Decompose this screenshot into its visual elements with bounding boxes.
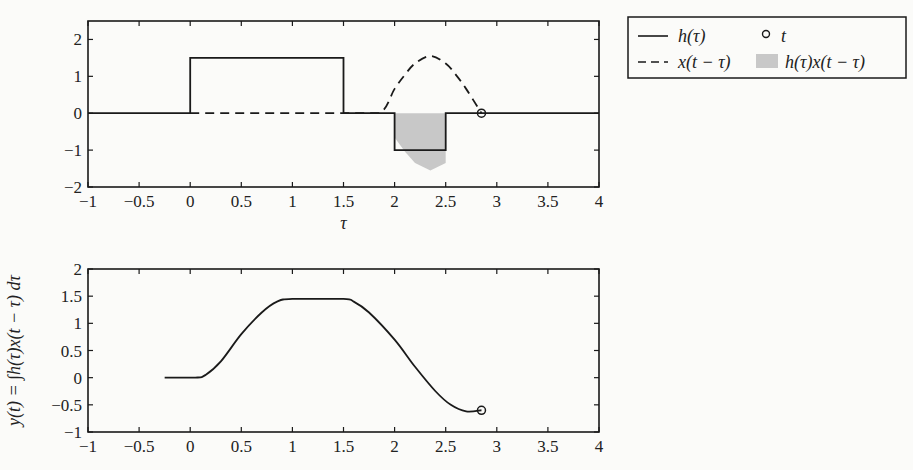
y-tick-label: 0 [74,104,83,123]
legend: h(τ)tx(t − τ)h(τ)x(t − τ) [628,17,906,78]
y-tick-label: 1 [74,67,83,86]
x-shifted-curve [190,56,481,113]
x-tick-label: 0.5 [231,437,252,456]
y-tick-label: −1 [64,141,82,160]
y-tick-label: 2 [74,30,83,49]
y-tick-label: −1 [64,423,82,442]
y-tick-label: 0.5 [61,342,82,361]
y-tick-label: 2 [74,260,83,279]
x-axis-title: τ [340,213,347,233]
figure: −1−0.500.511.522.533.54−2−1012τ−1−0.500.… [0,0,913,470]
legend-label-product: h(τ)x(t − τ) [785,52,865,73]
y-output-curve [165,299,482,412]
x-tick-label: 1.5 [333,437,354,456]
y-tick-label: 1 [74,314,83,333]
axes-frame [88,269,599,432]
convolution-plot: −1−0.500.511.522.533.54−2−1012τ [64,21,604,233]
y-tick-label: −2 [64,178,82,197]
x-tick-label: 3 [493,192,502,211]
gray-patch-icon [756,54,778,68]
x-tick-label: 0 [186,437,195,456]
output-plot: −1−0.500.511.522.533.54−1−0.500.511.52y(… [4,260,604,456]
x-tick-label: −0.5 [124,192,155,211]
x-tick-label: 2.5 [435,437,456,456]
x-tick-label: 4 [595,192,604,211]
x-tick-label: 1 [288,192,297,211]
x-tick-label: 2 [390,437,399,456]
y-tick-label: −0.5 [51,396,82,415]
y-axis-title: y(t) = ∫h(τ)x(t − τ) dτ [4,274,25,428]
product-area [395,113,446,170]
x-tick-label: 2 [390,192,399,211]
x-tick-label: 2.5 [435,192,456,211]
legend-label-h: h(τ) [678,26,705,47]
x-tick-label: 0 [186,192,195,211]
x-tick-label: 1.5 [333,192,354,211]
y-tick-label: 0 [74,369,83,388]
legend-label-x: x(t − τ) [677,52,731,73]
x-tick-label: −0.5 [124,437,155,456]
x-tick-label: 4 [595,437,604,456]
y-tick-label: 1.5 [61,287,82,306]
x-tick-label: 3.5 [537,437,558,456]
x-tick-label: 3.5 [537,192,558,211]
x-tick-label: 3 [493,437,502,456]
x-tick-label: 0.5 [231,192,252,211]
h-curve [88,58,599,150]
x-tick-label: 1 [288,437,297,456]
